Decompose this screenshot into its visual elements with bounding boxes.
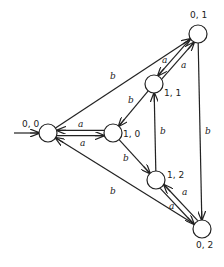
edge-label: b xyxy=(160,126,166,136)
edge-n02-n00 xyxy=(56,138,195,224)
state-label: 1, 0 xyxy=(123,129,140,139)
edge-label: b xyxy=(110,71,116,81)
edge-label: a xyxy=(182,187,187,197)
state-diagram: aabaabbbbaab0, 01, 01, 10, 11, 20, 2 xyxy=(0,0,224,267)
edge-label: a xyxy=(181,60,186,70)
edge-label: a xyxy=(80,138,85,148)
state-node-n00 xyxy=(39,124,57,142)
edge-label: b xyxy=(110,186,116,196)
state-node-n11 xyxy=(145,75,163,93)
state-node-n02 xyxy=(193,220,211,238)
edge-label: a xyxy=(162,55,167,65)
edge-label: a xyxy=(78,119,83,129)
edge-label: b xyxy=(123,153,129,163)
state-label: 1, 1 xyxy=(164,88,181,98)
state-label: 0, 2 xyxy=(196,240,213,250)
state-node-n12 xyxy=(147,171,165,189)
state-node-n01 xyxy=(189,25,207,43)
edge-n01-n02 xyxy=(198,43,202,220)
edge-n12-n11 xyxy=(154,93,156,171)
edge-label: b xyxy=(205,126,211,136)
state-label: 1, 2 xyxy=(167,170,184,180)
state-label: 0, 1 xyxy=(190,10,207,20)
edge-label: a xyxy=(169,201,174,211)
state-label: 0, 0 xyxy=(22,119,39,129)
edge-label: b xyxy=(128,95,134,105)
edge-n00-n01 xyxy=(56,39,191,128)
state-node-n10 xyxy=(104,124,122,142)
